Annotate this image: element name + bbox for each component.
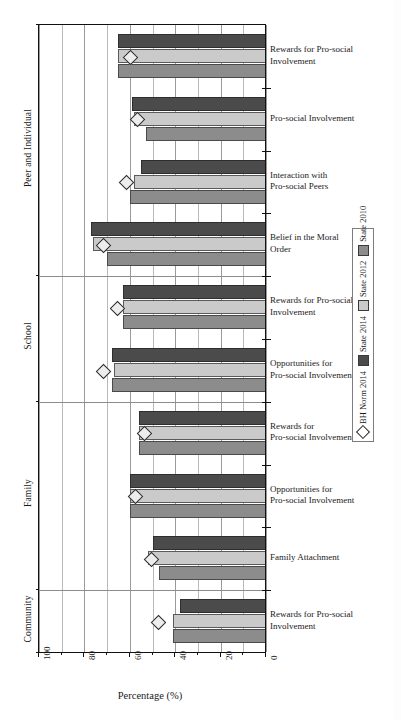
plot-area <box>38 24 265 652</box>
measure-label-line2: Pro-social Peers <box>270 181 362 193</box>
section-separator <box>39 590 265 591</box>
legend-item: State 2010 <box>358 206 369 256</box>
measure-label-line1: Belief in the Moral <box>270 232 362 244</box>
x-tick-0 <box>265 652 266 657</box>
measure-label-line1: Rewards for <box>270 421 362 433</box>
legend-item: BH Norm 2014 <box>358 371 368 437</box>
bar-s2014 <box>112 348 266 362</box>
measure-label-line1: Rewards for Pro-social <box>270 44 362 56</box>
legend-label: State 2012 <box>358 261 368 297</box>
bar-s2014 <box>139 411 266 425</box>
bar-s2010 <box>118 64 266 78</box>
bar-s2010 <box>123 315 266 329</box>
section-axis: Peer and IndividualSchoolFamilyCommunity <box>22 24 38 652</box>
measure-label: Opportunities forPro-social Involvement <box>270 484 362 507</box>
x-axis-title: Percentage (%) <box>0 690 300 701</box>
bar-group <box>39 25 265 88</box>
bar-group <box>39 339 265 402</box>
x-tick-30 <box>197 652 198 655</box>
bar-s2012 <box>118 49 266 63</box>
measure-tick <box>262 590 271 591</box>
x-tick-80 <box>83 652 84 657</box>
bar-s2014 <box>130 474 266 488</box>
section-label-school: School <box>23 286 33 386</box>
measure-label: Rewards for Pro-socialInvolvement <box>270 44 362 67</box>
measure-tick <box>262 213 271 214</box>
measure-label-line1: Interaction with <box>270 170 362 182</box>
x-tick-90 <box>61 652 62 655</box>
bar-s2012 <box>148 551 266 565</box>
bar-s2012 <box>134 175 266 189</box>
bar-s2010 <box>146 127 266 141</box>
x-tick-50 <box>152 652 153 655</box>
section-label-community: Community <box>23 569 33 669</box>
x-tick-60 <box>129 652 130 657</box>
measure-label: Pro-social Involvement <box>270 113 362 125</box>
norm-diamond-marker <box>96 363 112 379</box>
measure-label: Opportunities forPro-social Involvement <box>270 358 362 381</box>
measure-tick <box>262 276 271 277</box>
bar-s2014 <box>118 34 266 48</box>
bar-group <box>39 213 265 276</box>
bar-s2010 <box>159 566 266 580</box>
x-tick-label-40: 40 <box>178 651 188 660</box>
measure-label-line1: Rewards for Pro-social <box>270 295 362 307</box>
bar-s2014 <box>180 599 266 613</box>
measure-label-line2: Order <box>270 244 362 256</box>
norm-diamond-marker <box>150 614 166 630</box>
horizontal-bar-chart: Peer and IndividualSchoolFamilyCommunity… <box>0 0 401 720</box>
legend-diamond-icon <box>356 425 370 439</box>
measure-tick <box>262 151 271 152</box>
x-tick-label-80: 80 <box>87 651 97 660</box>
measure-label-line2: Involvement <box>270 621 362 633</box>
measure-label: Rewards forPro-social Involvement <box>270 421 362 444</box>
measure-tick <box>262 402 271 403</box>
x-tick-label-20: 20 <box>224 651 234 660</box>
bar-group <box>39 276 265 339</box>
scan-edge <box>393 0 401 720</box>
x-tick-label-60: 60 <box>133 651 143 660</box>
measure-label-line1: Pro-social Involvement <box>270 113 362 125</box>
measure-tick <box>262 465 271 466</box>
section-label-family: Family <box>23 443 33 543</box>
bar-s2014 <box>91 222 266 236</box>
bar-s2012 <box>130 489 266 503</box>
x-tick-label-0: 0 <box>269 656 279 661</box>
norm-diamond-marker <box>118 175 134 191</box>
chart-legend: BH Norm 2014State 2014State 2012State 20… <box>352 228 374 442</box>
bar-group <box>39 151 265 214</box>
bar-group <box>39 527 265 590</box>
bar-s2014 <box>141 160 266 174</box>
measure-label-line2: Pro-social Involvement <box>270 495 362 507</box>
bar-s2010 <box>173 629 266 643</box>
measure-label-line2: Pro-social Involvement <box>270 432 362 444</box>
bar-group <box>39 88 265 151</box>
measure-label-line1: Opportunities for <box>270 358 362 370</box>
section-separator <box>39 276 265 277</box>
legend-label: BH Norm 2014 <box>358 371 368 424</box>
bar-s2010 <box>139 441 266 455</box>
legend-label: State 2014 <box>358 316 368 352</box>
measure-label-line1: Family Attachment <box>270 552 362 564</box>
bar-s2010 <box>112 378 266 392</box>
bar-s2012 <box>134 112 266 126</box>
measure-tick <box>262 339 271 340</box>
bar-s2012 <box>114 363 266 377</box>
bar-group <box>39 465 265 528</box>
x-tick-label-100: 100 <box>42 647 52 661</box>
measure-label-line1: Rewards for Pro-social <box>270 609 362 621</box>
measure-tick <box>262 527 271 528</box>
legend-item: State 2014 <box>358 316 369 366</box>
bar-group <box>39 402 265 465</box>
measure-label-line2: Involvement <box>270 56 362 68</box>
section-label-peer-and-individual: Peer and Individual <box>23 98 33 198</box>
measure-label: Rewards for Pro-socialInvolvement <box>270 295 362 318</box>
x-tick-20 <box>220 652 221 657</box>
bar-s2010 <box>130 504 266 518</box>
measure-label: Rewards for Pro-socialInvolvement <box>270 609 362 632</box>
bar-s2012 <box>173 614 266 628</box>
measure-label: Belief in the MoralOrder <box>270 232 362 255</box>
bar-s2014 <box>153 536 267 550</box>
plot-right-edge <box>265 24 266 652</box>
bar-s2012 <box>123 300 266 314</box>
